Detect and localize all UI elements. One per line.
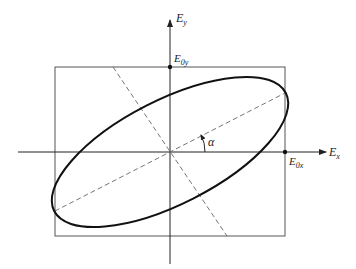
- y-amplitude-dot: [168, 65, 172, 69]
- angle-arc: [201, 135, 205, 152]
- y-axis-label: Ey: [175, 11, 187, 27]
- x-amplitude-dot: [283, 150, 287, 154]
- angle-label: α: [208, 135, 215, 149]
- y-amplitude-label: E0y: [173, 52, 189, 67]
- polarization-diagram: Ey Ex E0y E0x α: [0, 0, 356, 269]
- x-amplitude-label: E0x: [288, 155, 304, 170]
- x-axis-label: Ex: [328, 145, 340, 161]
